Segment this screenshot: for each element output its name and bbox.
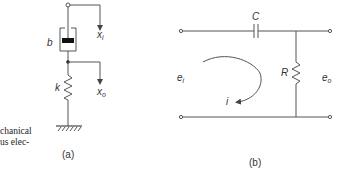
input-displacement-arrow [70, 5, 100, 28]
ground-icon [56, 126, 82, 131]
input-voltage-label: ei [177, 72, 185, 84]
resistor [292, 31, 300, 117]
spring-label: k [55, 82, 61, 93]
input-terminal-bottom [179, 115, 182, 118]
resistor-label: R [281, 67, 288, 78]
output-displacement-arrow [68, 62, 100, 82]
input-displacement-label: xi [96, 29, 104, 41]
capacitor [254, 24, 258, 38]
output-terminal-bottom [328, 115, 331, 118]
figure-b-caption: (b) [249, 157, 261, 168]
capacitor-label: C [252, 11, 260, 22]
figure-a-caption: (a) [62, 149, 74, 160]
output-voltage-label: eo [322, 72, 332, 84]
current-label: i [226, 96, 229, 107]
input-terminal [66, 3, 70, 7]
spring [64, 62, 72, 126]
figure-a-mechanical-system: xi b xo k (a) [47, 3, 106, 160]
piston [62, 38, 74, 43]
figure-b-rc-circuit: C R ei eo i (b) [177, 11, 332, 168]
caption-fragment-line-2: us elec- [0, 137, 29, 147]
damper-label: b [47, 37, 53, 48]
output-terminal-top [328, 29, 331, 32]
input-terminal-top [179, 29, 182, 32]
caption-fragment-line-1: chanical [0, 126, 32, 136]
current-loop-arrow [203, 57, 261, 102]
diagram-canvas: chanical us elec- xi b xo k (a) [0, 0, 337, 169]
dashpot [60, 7, 76, 62]
output-displacement-label: xo [96, 86, 106, 98]
